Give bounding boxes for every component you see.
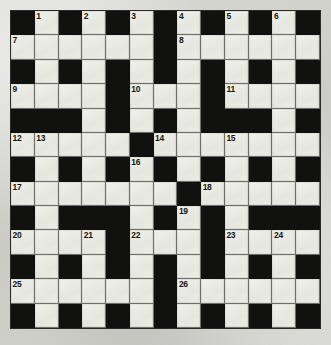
crossword-cell[interactable]: [59, 84, 83, 108]
crossword-cell[interactable]: [35, 206, 59, 230]
crossword-cell[interactable]: [35, 35, 59, 59]
crossword-cell[interactable]: [82, 133, 106, 157]
crossword-cell[interactable]: [106, 133, 130, 157]
crossword-cell[interactable]: [249, 35, 273, 59]
crossword-cell[interactable]: 13: [35, 133, 59, 157]
crossword-cell[interactable]: [35, 157, 59, 181]
crossword-cell[interactable]: [272, 60, 296, 84]
crossword-cell[interactable]: [225, 279, 249, 303]
crossword-cell[interactable]: 14: [154, 133, 178, 157]
crossword-cell[interactable]: [201, 35, 225, 59]
crossword-cell[interactable]: 5: [225, 11, 249, 35]
crossword-cell[interactable]: 15: [225, 133, 249, 157]
crossword-cell[interactable]: 17: [11, 182, 35, 206]
crossword-cell[interactable]: [296, 133, 320, 157]
crossword-cell[interactable]: [106, 182, 130, 206]
crossword-cell[interactable]: [201, 133, 225, 157]
crossword-cell[interactable]: [177, 84, 201, 108]
crossword-cell[interactable]: 23: [225, 230, 249, 254]
crossword-cell[interactable]: [82, 157, 106, 181]
crossword-cell[interactable]: [35, 279, 59, 303]
crossword-cell[interactable]: [82, 109, 106, 133]
crossword-cell[interactable]: [35, 255, 59, 279]
crossword-cell[interactable]: [59, 182, 83, 206]
crossword-cell[interactable]: 26: [177, 279, 201, 303]
crossword-cell[interactable]: [296, 182, 320, 206]
crossword-cell[interactable]: 20: [11, 230, 35, 254]
crossword-cell[interactable]: [130, 35, 154, 59]
crossword-cell[interactable]: [177, 304, 201, 328]
crossword-cell[interactable]: [177, 230, 201, 254]
crossword-cell[interactable]: 21: [82, 230, 106, 254]
crossword-cell[interactable]: [82, 60, 106, 84]
crossword-cell[interactable]: [225, 206, 249, 230]
crossword-cell[interactable]: 6: [272, 11, 296, 35]
crossword-cell[interactable]: [225, 182, 249, 206]
crossword-cell[interactable]: [106, 279, 130, 303]
crossword-cell[interactable]: [249, 230, 273, 254]
crossword-cell[interactable]: [249, 133, 273, 157]
crossword-cell[interactable]: [272, 157, 296, 181]
crossword-cell[interactable]: 19: [177, 206, 201, 230]
crossword-cell[interactable]: [82, 35, 106, 59]
crossword-cell[interactable]: [82, 304, 106, 328]
crossword-cell[interactable]: [296, 35, 320, 59]
crossword-cell[interactable]: [225, 157, 249, 181]
crossword-cell[interactable]: [59, 133, 83, 157]
crossword-cell[interactable]: 10: [130, 84, 154, 108]
crossword-cell[interactable]: [272, 84, 296, 108]
crossword-cell[interactable]: [130, 109, 154, 133]
crossword-cell[interactable]: 11: [225, 84, 249, 108]
crossword-cell[interactable]: 25: [11, 279, 35, 303]
crossword-cell[interactable]: [249, 84, 273, 108]
crossword-cell[interactable]: [82, 182, 106, 206]
crossword-cell[interactable]: [35, 182, 59, 206]
crossword-grid[interactable]: 1234567891011121314151617181920212223242…: [10, 10, 321, 329]
crossword-cell[interactable]: [35, 60, 59, 84]
crossword-cell[interactable]: [154, 230, 178, 254]
crossword-cell[interactable]: [82, 279, 106, 303]
crossword-cell[interactable]: [130, 206, 154, 230]
crossword-cell[interactable]: [272, 133, 296, 157]
crossword-cell[interactable]: [177, 157, 201, 181]
crossword-cell[interactable]: [154, 84, 178, 108]
crossword-cell[interactable]: [177, 60, 201, 84]
crossword-cell[interactable]: 3: [130, 11, 154, 35]
crossword-cell[interactable]: [225, 35, 249, 59]
crossword-cell[interactable]: [201, 279, 225, 303]
crossword-cell[interactable]: [35, 304, 59, 328]
crossword-cell[interactable]: [106, 35, 130, 59]
crossword-cell[interactable]: [35, 230, 59, 254]
crossword-cell[interactable]: [296, 279, 320, 303]
crossword-cell[interactable]: [130, 279, 154, 303]
crossword-cell[interactable]: 7: [11, 35, 35, 59]
crossword-cell[interactable]: [249, 279, 273, 303]
crossword-cell[interactable]: [59, 35, 83, 59]
crossword-cell[interactable]: [272, 35, 296, 59]
crossword-cell[interactable]: [272, 279, 296, 303]
crossword-cell[interactable]: [154, 182, 178, 206]
crossword-cell[interactable]: [82, 84, 106, 108]
crossword-cell[interactable]: [177, 255, 201, 279]
crossword-cell[interactable]: [130, 304, 154, 328]
crossword-cell[interactable]: [272, 109, 296, 133]
crossword-cell[interactable]: 8: [177, 35, 201, 59]
crossword-cell[interactable]: 1: [35, 11, 59, 35]
crossword-cell[interactable]: [130, 60, 154, 84]
crossword-cell[interactable]: [296, 84, 320, 108]
crossword-cell[interactable]: 12: [11, 133, 35, 157]
crossword-cell[interactable]: [130, 255, 154, 279]
crossword-cell[interactable]: [272, 304, 296, 328]
crossword-cell[interactable]: [272, 182, 296, 206]
crossword-cell[interactable]: [130, 182, 154, 206]
crossword-cell[interactable]: [272, 255, 296, 279]
crossword-cell[interactable]: 16: [130, 157, 154, 181]
crossword-cell[interactable]: [35, 84, 59, 108]
crossword-cell[interactable]: [177, 133, 201, 157]
crossword-cell[interactable]: [59, 230, 83, 254]
crossword-cell[interactable]: [225, 60, 249, 84]
crossword-cell[interactable]: [225, 255, 249, 279]
crossword-cell[interactable]: 22: [130, 230, 154, 254]
crossword-cell[interactable]: 18: [201, 182, 225, 206]
crossword-cell[interactable]: [225, 304, 249, 328]
